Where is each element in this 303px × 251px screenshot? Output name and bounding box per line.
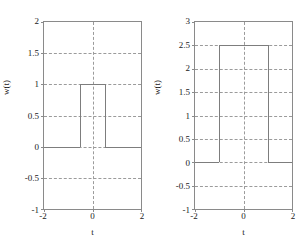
- y-tickmark: [41, 84, 44, 85]
- y-tick-label: 2: [35, 17, 40, 26]
- trace-segment-rising-edge: [219, 45, 220, 162]
- y-tick-label: 0.5: [179, 135, 190, 144]
- gridline-x-0: [93, 22, 94, 209]
- x-tick-label: 0: [90, 212, 95, 221]
- y-tickmark: [192, 45, 195, 46]
- y-tick-label: -1: [32, 206, 40, 215]
- y-tick-labels-right: 3 2.5 2 1.5 1 0.5 0 -0.5 -1: [151, 21, 192, 210]
- x-tick-label: 0: [241, 212, 246, 221]
- x-tick-label: 2: [291, 212, 296, 221]
- y-tickmark: [41, 116, 44, 117]
- y-tickmark: [192, 92, 195, 93]
- x-tick-labels-right: -2 0 2: [194, 211, 293, 225]
- y-tickmark: [192, 69, 195, 70]
- trace-segment-rising-edge: [80, 84, 81, 146]
- x-axis-label-right: t: [194, 228, 293, 237]
- y-tickmark: [192, 22, 195, 23]
- trace-segment-pulse-top: [219, 45, 268, 46]
- y-tickmark: [41, 178, 44, 179]
- plot-area-right: [194, 21, 293, 210]
- x-tick-label: -2: [190, 212, 198, 221]
- y-tick-label: 3: [186, 17, 191, 26]
- y-tickmark: [192, 116, 195, 117]
- trace-segment-right-baseline: [105, 147, 141, 148]
- trace-segment-right-baseline: [268, 162, 292, 163]
- trace-segment-falling-edge: [268, 45, 269, 162]
- plot-area-left: [43, 21, 142, 210]
- y-tick-label: 1.5: [179, 87, 190, 96]
- y-tick-label: 2: [186, 64, 191, 73]
- y-tick-label: 0: [186, 158, 191, 167]
- y-tick-label: -0.5: [176, 182, 190, 191]
- y-tickmark: [41, 53, 44, 54]
- y-tick-label: 2.5: [179, 40, 190, 49]
- y-tickmark: [192, 186, 195, 187]
- y-tick-label: 0: [35, 143, 40, 152]
- x-tick-labels-left: -2 0 2: [43, 211, 142, 225]
- y-tick-label: 1: [186, 111, 191, 120]
- x-tick-label: -2: [39, 212, 47, 221]
- trace-segment-left-baseline: [195, 162, 219, 163]
- y-tick-label: 1: [35, 79, 40, 88]
- y-tick-labels-left: 2 1.5 1 0.5 0 -0.5 -1: [0, 21, 41, 210]
- trace-segment-pulse-top: [80, 84, 104, 85]
- trace-segment-falling-edge: [105, 84, 106, 146]
- plot-panel-right: w(t) 3 2.5 2 1.5 1 0.5 0 -0.5 -1: [151, 0, 302, 251]
- figure-container: w(t) 2 1.5 1 0.5 0 -0.5 -1: [0, 0, 303, 251]
- y-tickmark: [41, 22, 44, 23]
- y-tickmark: [192, 139, 195, 140]
- gridline-x-0: [244, 22, 245, 209]
- plot-panel-left: w(t) 2 1.5 1 0.5 0 -0.5 -1: [0, 0, 151, 251]
- y-tick-label: 0.5: [28, 111, 39, 120]
- y-tick-label: -0.5: [25, 174, 39, 183]
- x-axis-label-left: t: [43, 228, 142, 237]
- trace-segment-left-baseline: [44, 147, 80, 148]
- y-tick-label: -1: [183, 206, 191, 215]
- x-tick-label: 2: [140, 212, 145, 221]
- y-tick-label: 1.5: [28, 48, 39, 57]
